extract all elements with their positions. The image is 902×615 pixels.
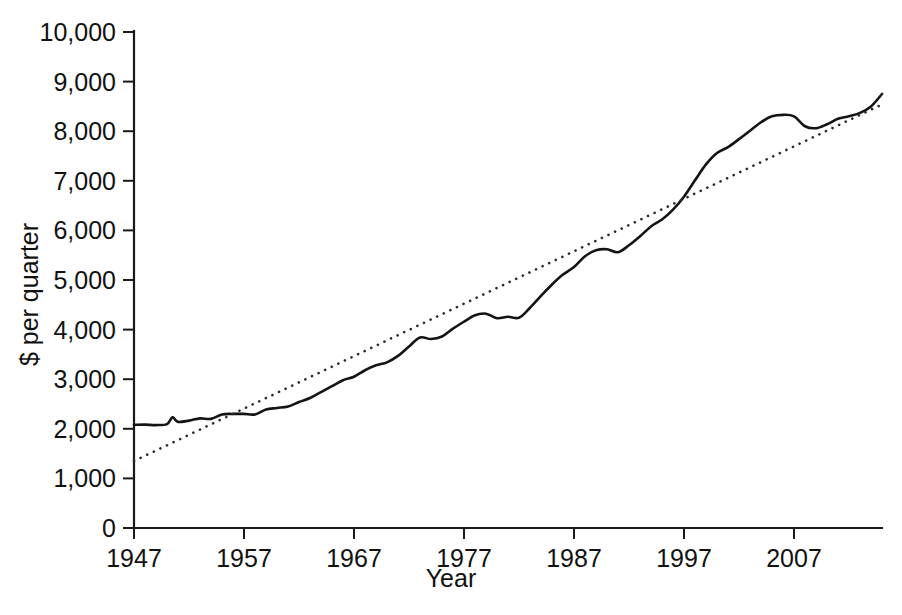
y-tick-label: 8,000 xyxy=(0,119,116,144)
y-tick-label: 10,000 xyxy=(0,20,116,45)
y-tick-label: 1,000 xyxy=(0,466,116,491)
y-axis-title: $ per quarter xyxy=(15,180,44,410)
y-tick-label: 0 xyxy=(0,516,116,541)
chart-figure: 01,0002,0003,0004,0005,0006,0007,0008,00… xyxy=(0,0,902,615)
data-line-series xyxy=(134,94,882,425)
y-tick-label: 9,000 xyxy=(0,69,116,94)
y-tick-label: 2,000 xyxy=(0,416,116,441)
x-axis-title: Year xyxy=(0,564,902,593)
trend-line-series xyxy=(134,104,882,461)
chart-series-group xyxy=(134,94,882,461)
chart-plot-area xyxy=(0,0,902,615)
